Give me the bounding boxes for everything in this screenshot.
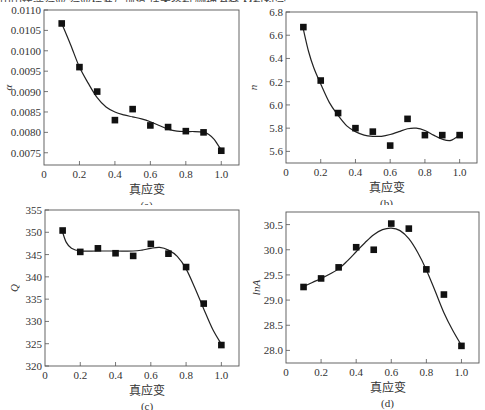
y-tick-label: 345 [26, 249, 43, 261]
y-axis-label: Q [8, 284, 20, 292]
y-tick-label: 30.5 [264, 219, 284, 231]
y-tick-label: 28.5 [264, 319, 284, 331]
y-tick-label: 0.0110 [11, 4, 41, 16]
data-point-marker [129, 106, 136, 113]
data-point-marker [183, 264, 190, 271]
y-tick-label: 29.0 [264, 294, 284, 306]
data-point-marker [352, 125, 359, 132]
x-tick-label: 1.0 [214, 369, 228, 381]
y-tick-label: 320 [26, 360, 43, 372]
x-tick-label: 0.8 [179, 369, 193, 381]
data-point-marker [59, 227, 66, 234]
x-axis-label: 真应变 [129, 182, 165, 197]
y-tick-label: 0.0100 [11, 45, 42, 57]
data-point-marker [183, 128, 190, 135]
data-point-marker [318, 275, 325, 282]
panel-label: (d) [381, 397, 394, 410]
data-point-marker [76, 64, 83, 71]
data-point-marker [165, 250, 172, 257]
data-point-marker [387, 142, 394, 149]
data-point-marker [335, 264, 342, 271]
x-tick-label: 0 [42, 369, 48, 381]
data-point-marker [300, 24, 307, 31]
x-tick-label: 0 [41, 168, 47, 180]
x-tick-label: 0.4 [108, 168, 122, 180]
data-point-marker [130, 253, 137, 260]
data-point-marker [439, 132, 446, 139]
panel-label: (b) [380, 197, 393, 205]
x-tick-label: 0.8 [419, 366, 433, 378]
x-tick-label: 0.8 [418, 166, 432, 178]
y-axis-label: α [2, 84, 14, 90]
x-tick-label: 0 [283, 366, 289, 378]
y-tick-label: 340 [26, 271, 43, 283]
y-tick-label: 0.0085 [11, 106, 42, 118]
fit-curve [303, 29, 459, 140]
x-tick-label: 0.2 [314, 366, 328, 378]
data-point-marker [148, 241, 155, 248]
x-axis-label: 真应变 [129, 383, 165, 398]
data-point-marker [423, 266, 430, 273]
data-point-marker [147, 122, 154, 129]
data-point-marker [165, 124, 172, 131]
x-axis-label: 真应变 [369, 180, 405, 195]
y-tick-label: 29.5 [264, 269, 284, 281]
data-point-marker [335, 110, 342, 117]
data-point-marker [218, 147, 225, 154]
y-tick-label: 6.6 [269, 29, 283, 41]
y-tick-label: 28.0 [264, 344, 284, 356]
x-tick-label: 0.8 [179, 168, 193, 180]
y-tick-label: 6.4 [269, 52, 283, 64]
y-tick-label: 5.6 [269, 145, 283, 157]
data-point-marker [317, 77, 324, 84]
x-tick-label: 0.6 [143, 168, 157, 180]
data-point-marker [456, 132, 463, 139]
x-tick-label: 0.2 [314, 166, 328, 178]
y-tick-label: 6.2 [269, 76, 283, 88]
data-point-marker [300, 284, 307, 291]
data-point-marker [112, 117, 119, 124]
plot-frame [45, 210, 239, 366]
panel-label: (c) [141, 400, 154, 410]
x-tick-label: 0.4 [349, 366, 363, 378]
x-tick-label: 0 [283, 166, 289, 178]
x-tick-label: 1.0 [455, 366, 469, 378]
y-tick-label: 335 [26, 293, 43, 305]
data-point-marker [458, 343, 465, 350]
fit-curve [63, 232, 222, 344]
y-tick-label: 30.0 [264, 244, 284, 256]
x-tick-label: 0.4 [109, 369, 123, 381]
y-tick-label: 0.0095 [11, 65, 42, 77]
data-point-marker [95, 245, 102, 252]
data-point-marker [441, 291, 448, 298]
y-tick-label: 330 [26, 315, 43, 327]
y-tick-label: 6.8 [269, 6, 283, 18]
fit-curve [62, 23, 222, 149]
chart-panel-d: 00.20.40.60.81.028.028.529.029.530.030.5… [245, 205, 485, 410]
fit-curve [304, 228, 462, 345]
y-tick-label: 0.0075 [11, 147, 42, 159]
x-tick-label: 1.0 [453, 166, 467, 178]
data-point-marker [58, 20, 65, 27]
data-point-marker [404, 116, 411, 123]
y-tick-label: 5.8 [269, 122, 283, 134]
x-tick-label: 0.4 [349, 166, 363, 178]
x-tick-label: 0.6 [383, 166, 397, 178]
y-tick-label: 355 [26, 205, 43, 216]
data-point-marker [370, 246, 377, 253]
x-tick-label: 1.0 [214, 168, 228, 180]
plot-frame [44, 10, 239, 165]
y-tick-label: 0.0090 [11, 86, 42, 98]
data-point-marker [422, 132, 429, 139]
y-tick-label: 0.0080 [11, 126, 42, 138]
chart-panel-b: 00.20.40.60.81.05.65.86.06.26.46.66.8n真应… [245, 0, 485, 205]
x-tick-label: 0.6 [144, 369, 158, 381]
data-point-marker [94, 88, 101, 95]
x-tick-label: 0.2 [73, 369, 87, 381]
x-axis-label: 真应变 [370, 380, 406, 395]
data-point-marker [200, 300, 207, 307]
data-point-marker [388, 220, 395, 227]
x-tick-label: 0.2 [73, 168, 87, 180]
data-point-marker [406, 225, 413, 232]
y-axis-label: lnA [250, 280, 262, 296]
